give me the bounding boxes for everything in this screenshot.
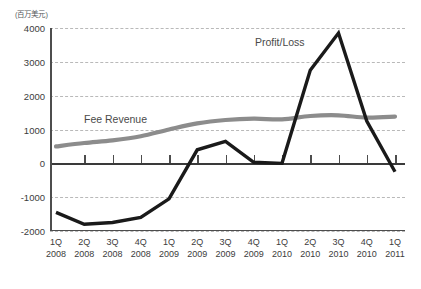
chart-root: (百万美元) -2000-100001000200030004000 Fee R…	[0, 0, 421, 289]
x-axis-tick-label: 2Q2009	[187, 236, 207, 260]
y-axis-tick-label: -2000	[21, 226, 45, 237]
x-tick-year: 2009	[187, 248, 207, 260]
x-axis-tick-label: 1Q2010	[272, 236, 292, 260]
x-axis-tick-label: 1Q2009	[159, 236, 179, 260]
x-tick-quarter: 3Q	[328, 236, 348, 248]
y-axis-tick-label: 0	[40, 158, 45, 169]
gridline	[50, 231, 405, 232]
x-axis-tick-label: 1Q2011	[385, 236, 404, 260]
x-tick-quarter: 2Q	[300, 236, 320, 248]
x-tick-year: 2009	[244, 248, 264, 260]
fee-revenue-series-label: Fee Revenue	[84, 113, 147, 125]
x-tick-year: 2008	[46, 248, 66, 260]
x-axis-tick-label: 1Q2008	[46, 236, 66, 260]
x-tick-quarter: 2Q	[187, 236, 207, 248]
x-tick-quarter: 4Q	[244, 236, 264, 248]
x-tick-year: 2008	[74, 248, 94, 260]
x-tick-year: 2009	[215, 248, 235, 260]
x-tick-year: 2011	[385, 248, 404, 260]
x-tick-quarter: 1Q	[46, 236, 66, 248]
y-axis-tick-label: 1000	[24, 124, 45, 135]
x-axis-tick-label: 3Q2010	[328, 236, 348, 260]
profit-loss-series-label: Profit/Loss	[255, 36, 305, 48]
x-axis-tick-label: 3Q2008	[102, 236, 122, 260]
x-tick-quarter: 3Q	[102, 236, 122, 248]
profit-loss-line	[56, 33, 395, 224]
x-tick-year: 2009	[159, 248, 179, 260]
y-axis-tick-label: 4000	[24, 23, 45, 34]
x-tick-quarter: 1Q	[385, 236, 404, 248]
x-axis-tick-labels: 1Q20082Q20083Q20084Q20081Q20092Q20093Q20…	[50, 236, 405, 281]
y-axis-tick-label: 3000	[24, 56, 45, 67]
plot-area	[50, 28, 405, 231]
y-axis-tick-label: -1000	[21, 192, 45, 203]
x-tick-year: 2010	[357, 248, 377, 260]
series-paths	[50, 28, 405, 231]
x-axis-tick-label: 2Q2008	[74, 236, 94, 260]
x-tick-quarter: 4Q	[131, 236, 151, 248]
x-tick-year: 2010	[328, 248, 348, 260]
x-tick-year: 2010	[300, 248, 320, 260]
x-tick-year: 2008	[102, 248, 122, 260]
x-tick-quarter: 3Q	[215, 236, 235, 248]
x-tick-quarter: 1Q	[272, 236, 292, 248]
y-axis-unit-caption: (百万美元)	[15, 8, 48, 19]
x-tick-quarter: 2Q	[74, 236, 94, 248]
y-axis-tick-label: 2000	[24, 90, 45, 101]
x-axis-tick-label: 4Q2008	[131, 236, 151, 260]
x-axis-tick-label: 3Q2009	[215, 236, 235, 260]
x-axis-tick-label: 4Q2009	[244, 236, 264, 260]
x-tick-quarter: 4Q	[357, 236, 377, 248]
x-tick-quarter: 1Q	[159, 236, 179, 248]
x-axis-tick-label: 4Q2010	[357, 236, 377, 260]
y-axis-tick-labels: -2000-100001000200030004000	[0, 28, 45, 231]
x-axis-tick-label: 2Q2010	[300, 236, 320, 260]
x-tick-year: 2010	[272, 248, 292, 260]
x-tick-year: 2008	[131, 248, 151, 260]
